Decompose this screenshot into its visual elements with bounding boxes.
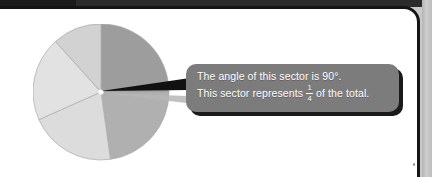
pie-center-dot xyxy=(98,89,103,94)
callout-line-2: This sector represents 1 4 of the total. xyxy=(197,84,389,102)
fraction-one-quarter: 1 4 xyxy=(306,84,313,102)
callout-line-1-text: The angle of this sector is 90°. xyxy=(197,69,342,84)
scanned-page: The angle of this sector is 90°. This se… xyxy=(0,0,432,177)
pie-chart-svg xyxy=(33,24,170,161)
sector-annotation-callout: The angle of this sector is 90°. This se… xyxy=(186,64,399,112)
callout-line-1: The angle of this sector is 90°. xyxy=(197,69,389,84)
callout-line-2-suffix: of the total. xyxy=(316,86,369,101)
scan-speck xyxy=(413,163,415,166)
fraction-numerator: 1 xyxy=(307,84,311,92)
pie-slice xyxy=(101,92,169,159)
pie-chart xyxy=(33,24,170,161)
pie-slice xyxy=(101,24,169,92)
callout-line-2-prefix: This sector represents xyxy=(197,86,303,101)
fraction-denominator: 4 xyxy=(307,94,311,102)
scan-gutter xyxy=(422,0,432,177)
